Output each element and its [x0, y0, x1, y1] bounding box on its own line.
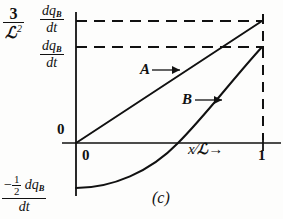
y-bottom-value-numerator: dq — [25, 177, 39, 192]
figure-container: 3 ℒ2 dqB dt dqB dt − 1 2 dqB dt 0 0 — [0, 0, 283, 219]
x-max-label: 1 — [258, 148, 266, 163]
curve-a-pointer-arrow — [152, 66, 180, 74]
y-mid-value-subscript: B — [56, 45, 62, 54]
x-axis-label-variable: x — [188, 141, 195, 157]
y-top-coefficient-power: 2 — [17, 23, 22, 34]
x-origin-label: 0 — [82, 148, 90, 163]
y-mid-value-label: dqB dt — [40, 38, 64, 71]
y-top-value-label: dqB dt — [40, 3, 64, 36]
y-top-value-numerator: dq — [42, 3, 56, 18]
y-top-value-denominator: dt — [46, 20, 57, 35]
y-bottom-value-label: − 1 2 dqB dt — [2, 174, 46, 215]
y-bottom-minus-sign: − — [4, 177, 12, 192]
y-bottom-value-subscript: B — [39, 184, 45, 193]
y-origin-label: 0 — [57, 122, 65, 137]
curve-b — [76, 47, 262, 188]
y-top-coefficient: 3 ℒ2 — [3, 5, 24, 43]
y-mid-value-numerator: dq — [42, 38, 56, 53]
y-bottom-half-denominator: 2 — [12, 186, 21, 198]
x-axis-label-arrow: → — [208, 141, 223, 157]
x-axis-label-length-symbol: ℒ — [197, 140, 208, 158]
y-bottom-value-denominator: dt — [19, 199, 30, 214]
curve-a-label: A — [140, 62, 150, 77]
curve-a — [76, 21, 262, 143]
y-top-value-subscript: B — [56, 10, 62, 19]
y-mid-value-denominator: dt — [46, 55, 57, 70]
y-top-coefficient-denominator: ℒ — [5, 24, 17, 43]
curve-b-label: B — [182, 92, 192, 107]
figure-caption: (c) — [152, 190, 170, 206]
x-axis-label: x⁄ℒ→ — [188, 142, 223, 157]
y-top-coefficient-numerator: 3 — [3, 5, 24, 23]
